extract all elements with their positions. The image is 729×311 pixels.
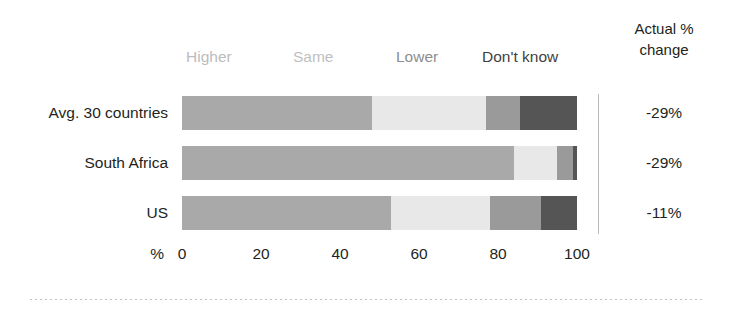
bar-segment-dont-know: [520, 96, 577, 130]
stacked-bar: [182, 196, 577, 230]
bar-segment-higher: [182, 96, 372, 130]
bar-segment-higher: [182, 196, 391, 230]
axis-tick: 100: [564, 240, 590, 268]
row-label: South Africa: [0, 146, 168, 180]
chart-row: Avg. 30 countries -29%: [0, 96, 729, 130]
bar-segment-dont-know: [573, 146, 577, 180]
bar-segment-dont-know: [541, 196, 577, 230]
axis-tick: 20: [252, 240, 269, 268]
bar-segment-lower: [486, 96, 520, 130]
axis-unit-label: %: [128, 240, 164, 268]
actual-change-header-line1: Actual %: [608, 18, 720, 39]
bar-segment-same: [391, 196, 490, 230]
bar-segment-lower: [557, 146, 573, 180]
axis-tick: 0: [178, 240, 187, 268]
stacked-bar: [182, 96, 577, 130]
legend-item-lower: Lower: [396, 44, 438, 70]
stacked-bar: [182, 146, 577, 180]
row-actual-change: -29%: [608, 96, 720, 130]
bar-segment-same: [514, 146, 557, 180]
bottom-dotted-rule: [30, 299, 702, 300]
actual-change-column-header: Actual % change: [608, 18, 720, 60]
bar-segment-higher: [182, 146, 514, 180]
axis-tick: 60: [410, 240, 427, 268]
row-actual-change: -11%: [608, 196, 720, 230]
x-axis: % 0 20 40 60 80 100: [0, 240, 729, 268]
axis-tick: 80: [489, 240, 506, 268]
row-actual-change: -29%: [608, 146, 720, 180]
legend-item-higher: Higher: [186, 44, 232, 70]
bar-segment-lower: [490, 196, 541, 230]
axis-tick: 40: [331, 240, 348, 268]
actual-change-header-line2: change: [608, 39, 720, 60]
legend-item-dont-know: Don't know: [482, 44, 558, 70]
chart-row: South Africa -29%: [0, 146, 729, 180]
bar-segment-same: [372, 96, 487, 130]
row-label: Avg. 30 countries: [0, 96, 168, 130]
legend-item-same: Same: [293, 44, 334, 70]
chart-legend: Higher Same Lower Don't know: [182, 44, 577, 70]
stacked-bar-chart: Higher Same Lower Don't know Actual % ch…: [0, 0, 729, 311]
row-label: US: [0, 196, 168, 230]
chart-row: US -11%: [0, 196, 729, 230]
